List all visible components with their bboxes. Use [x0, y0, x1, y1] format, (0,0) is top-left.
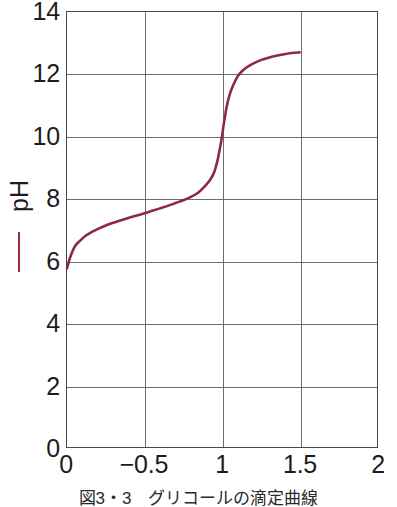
yaxis-tick-label: 14: [2, 0, 60, 24]
titration-curve-svg: [67, 12, 377, 447]
xaxis-tick-label: 0: [59, 452, 73, 477]
xaxis-tick-label: 1.5: [283, 452, 317, 477]
yaxis-tick-label: 8: [2, 186, 60, 211]
xaxis-tick-label: 2: [371, 452, 385, 477]
xaxis-tick-labels: 0−0.511.52: [66, 452, 378, 486]
yaxis-tick-label: 10: [2, 123, 60, 148]
yaxis-tick-label: 6: [2, 248, 60, 273]
xaxis-tick-label: −0.5: [120, 452, 169, 477]
figure-caption: 図3・3 グリコールの滴定曲線: [0, 489, 397, 507]
yaxis-tick-labels: 14121086420: [0, 11, 60, 448]
yaxis-tick-label: 4: [2, 311, 60, 336]
yaxis-tick-label: 12: [2, 61, 60, 86]
figure-root: pH 14121086420 0−0.511.52 図3・3 グリコールの滴定曲…: [0, 0, 397, 507]
yaxis-tick-label: 2: [2, 373, 60, 398]
titration-curve-path: [67, 52, 300, 268]
yaxis-tick-label: 0: [2, 436, 60, 461]
xaxis-tick-label: 1: [215, 452, 229, 477]
plot-area: [66, 11, 378, 448]
